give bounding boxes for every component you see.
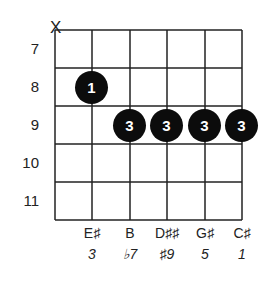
interval-label: ♯9 bbox=[147, 246, 187, 262]
interval-label: 1 bbox=[222, 246, 262, 262]
note-label: E♯ bbox=[72, 225, 112, 241]
finger-dot: 3 bbox=[188, 109, 221, 142]
interval-label: ♭7 bbox=[110, 246, 150, 262]
fret-number-8: 8 bbox=[9, 78, 39, 95]
finger-dot: 3 bbox=[225, 109, 258, 142]
fret-number-7: 7 bbox=[9, 40, 39, 57]
note-label: C♯ bbox=[222, 225, 262, 241]
note-label: D♯♯ bbox=[147, 225, 187, 241]
note-label: G♯ bbox=[185, 225, 225, 241]
fret-number-10: 10 bbox=[9, 154, 39, 171]
interval-label: 5 bbox=[185, 246, 225, 262]
fretboard-grid bbox=[0, 0, 270, 288]
muted-string-x: X bbox=[50, 18, 61, 38]
fret-number-9: 9 bbox=[9, 116, 39, 133]
finger-dot: 3 bbox=[113, 109, 146, 142]
fret-number-11: 11 bbox=[9, 192, 39, 209]
interval-label: 3 bbox=[72, 246, 112, 262]
note-label: B bbox=[110, 225, 150, 241]
finger-dot: 1 bbox=[75, 71, 108, 104]
finger-dot: 3 bbox=[150, 109, 183, 142]
